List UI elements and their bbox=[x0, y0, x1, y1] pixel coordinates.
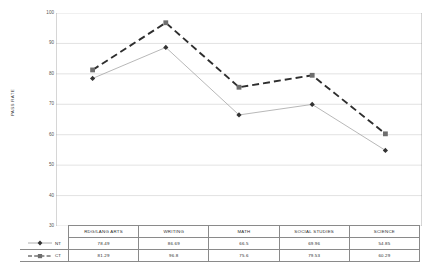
legend-header-spacer bbox=[20, 226, 69, 238]
data-table: RDG/LANG ARTS WRITING MATH SOCIAL STUDIE… bbox=[20, 225, 420, 262]
legend-label-ct: CT bbox=[54, 253, 66, 258]
data-point-nt bbox=[383, 148, 388, 153]
table-header-rdg-lang-arts: RDG/LANG ARTS bbox=[69, 226, 139, 238]
y-tick-40: 40 bbox=[36, 194, 54, 199]
y-tick-60: 60 bbox=[36, 133, 54, 138]
table-header-writing: WRITING bbox=[139, 226, 209, 238]
table-cell-ct-social: 79.53 bbox=[279, 250, 349, 262]
ct-line-marker-icon bbox=[27, 252, 53, 260]
table-cell-ct-science: 60.29 bbox=[349, 250, 419, 262]
table-cell-nt-writing: 86.69 bbox=[139, 238, 209, 250]
table-cell-nt-science: 54.85 bbox=[349, 238, 419, 250]
table-header-math: MATH bbox=[209, 226, 279, 238]
table-row: NT 78.49 86.69 66.5 69.96 54.85 bbox=[20, 238, 420, 250]
table-header-science: SCIENCE bbox=[349, 226, 419, 238]
nt-line-marker-icon bbox=[27, 239, 53, 247]
series-layer bbox=[90, 20, 388, 153]
table-header-row: RDG/LANG ARTS WRITING MATH SOCIAL STUDIE… bbox=[20, 226, 420, 238]
y-tick-50: 50 bbox=[36, 163, 54, 168]
table-cell-ct-rdg: 81.29 bbox=[69, 250, 139, 262]
legend-entry-nt: NT bbox=[20, 238, 69, 250]
line-chart-svg bbox=[56, 13, 422, 226]
legend-label-nt: NT bbox=[54, 241, 66, 246]
table-cell-ct-writing: 96.8 bbox=[139, 250, 209, 262]
table-cell-nt-math: 66.5 bbox=[209, 238, 279, 250]
y-axis-title: PASS RATE bbox=[10, 73, 15, 133]
plot-area bbox=[56, 13, 422, 226]
y-axis-tick-labels: 100 90 80 70 60 50 40 30 bbox=[30, 13, 54, 226]
data-point-ct bbox=[90, 68, 95, 73]
series-nt bbox=[90, 45, 388, 153]
table-cell-ct-math: 75.6 bbox=[209, 250, 279, 262]
y-tick-100: 100 bbox=[36, 11, 54, 16]
y-tick-80: 80 bbox=[36, 72, 54, 77]
data-point-nt bbox=[310, 102, 315, 107]
y-tick-90: 90 bbox=[36, 41, 54, 46]
chart-screenshot: PASS RATE 100 90 80 70 60 50 40 30 RDG/L… bbox=[0, 0, 429, 275]
data-point-ct bbox=[310, 73, 315, 78]
series-ct bbox=[90, 20, 388, 136]
data-point-nt bbox=[90, 76, 95, 81]
table-cell-nt-rdg: 78.49 bbox=[69, 238, 139, 250]
y-tick-70: 70 bbox=[36, 102, 54, 107]
table-cell-nt-social: 69.96 bbox=[279, 238, 349, 250]
legend-entry-ct: CT bbox=[20, 250, 69, 262]
data-point-ct bbox=[163, 20, 168, 25]
table-row: CT 81.29 96.8 75.6 79.53 60.29 bbox=[20, 250, 420, 262]
table-header-social-studies: SOCIAL STUDIES bbox=[279, 226, 349, 238]
gridlines bbox=[56, 13, 422, 226]
axis-lines bbox=[56, 13, 422, 226]
data-point-ct bbox=[237, 85, 242, 90]
data-point-ct bbox=[383, 131, 388, 136]
